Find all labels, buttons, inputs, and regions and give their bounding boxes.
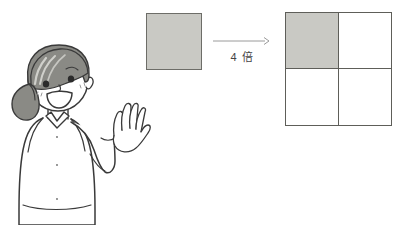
illustration-canvas: 4 倍 [0, 0, 413, 225]
shirt-button-1 [56, 136, 58, 138]
shirt-button-3 [56, 198, 58, 200]
eye-left [43, 80, 49, 87]
grid-cell-bottom-left [286, 69, 339, 125]
grid-cell-top-left [286, 13, 339, 69]
arrow-icon [212, 33, 272, 49]
multiplier-label: 4 倍 [212, 48, 272, 64]
ponytail [12, 84, 39, 120]
grid-cell-top-right [339, 13, 392, 69]
girl-svg [2, 42, 162, 225]
four-times-square [285, 12, 392, 126]
transform-arrow [212, 33, 272, 49]
girl-illustration [2, 42, 162, 225]
raised-open-hand [113, 103, 150, 151]
unit-square [146, 13, 202, 70]
grid-cell-bottom-right [339, 69, 392, 125]
shirt-button-2 [56, 164, 58, 166]
eye-right [68, 75, 74, 82]
